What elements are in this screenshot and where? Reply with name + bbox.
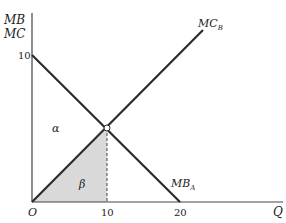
x-tick-20: 20: [174, 207, 187, 218]
x-tick-10: 10: [101, 207, 114, 218]
x-axis-label: Q: [273, 205, 283, 219]
mc-b-label: MCB: [197, 17, 223, 32]
mb-a-label: MBA: [170, 177, 195, 192]
y-axis-label-mb: MB: [3, 13, 25, 27]
equilibrium-point: [104, 125, 110, 131]
beta-region-label: β: [78, 178, 85, 191]
y-tick-10: 10: [18, 50, 31, 61]
marginal-benefit-cost-diagram: MB MC 10 O 10 20 Q MCB MBA α β: [0, 0, 286, 223]
alpha-region-label: α: [52, 122, 60, 135]
y-axis-label-mc: MC: [3, 27, 25, 41]
origin-label: O: [28, 206, 37, 219]
